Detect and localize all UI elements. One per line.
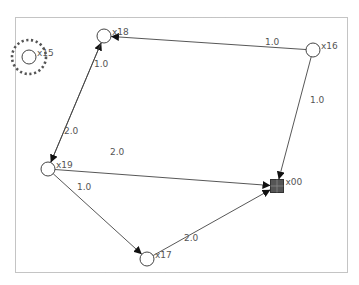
graph-canvas[interactable]: 1.01.02.01.02.01.02.0 x15x18x16x19x00x17 bbox=[0, 0, 359, 285]
node-label: x18 bbox=[112, 27, 129, 37]
node-x18[interactable]: x18 bbox=[97, 27, 129, 43]
node-label: x00 bbox=[286, 177, 303, 187]
edge-weight-label: 1.0 bbox=[265, 37, 280, 47]
node-x00[interactable]: x00 bbox=[271, 177, 303, 193]
edge-layer bbox=[51, 36, 311, 255]
node-circle-icon bbox=[140, 252, 154, 266]
edge-weight-label: 2.0 bbox=[184, 233, 199, 243]
node-label: x15 bbox=[37, 48, 54, 58]
node-label: x16 bbox=[321, 41, 338, 51]
edge-label-layer: 1.01.02.01.02.01.02.0 bbox=[64, 37, 325, 243]
node-label: x19 bbox=[56, 160, 73, 170]
edge-x19-to-x17[interactable] bbox=[53, 174, 142, 255]
node-circle-icon bbox=[97, 29, 111, 43]
node-x15[interactable]: x15 bbox=[12, 40, 54, 74]
edge-weight-label: 2.0 bbox=[64, 126, 79, 136]
node-circle-icon bbox=[41, 162, 55, 176]
edge-x16-to-x00[interactable] bbox=[279, 57, 311, 180]
node-x17[interactable]: x17 bbox=[140, 250, 172, 266]
node-circle-icon bbox=[22, 50, 36, 64]
node-label: x17 bbox=[155, 250, 172, 260]
node-circle-icon bbox=[306, 43, 320, 57]
edge-x17-to-x00[interactable] bbox=[153, 190, 270, 256]
node-layer: x15x18x16x19x00x17 bbox=[12, 27, 338, 266]
edge-weight-label: 1.0 bbox=[310, 95, 325, 105]
graph-frame bbox=[16, 18, 348, 273]
node-x19[interactable]: x19 bbox=[41, 160, 73, 176]
edge-weight-label: 2.0 bbox=[110, 147, 125, 157]
node-x16[interactable]: x16 bbox=[306, 41, 338, 57]
edge-weight-label: 1.0 bbox=[94, 59, 109, 69]
edge-weight-label: 1.0 bbox=[77, 182, 92, 192]
